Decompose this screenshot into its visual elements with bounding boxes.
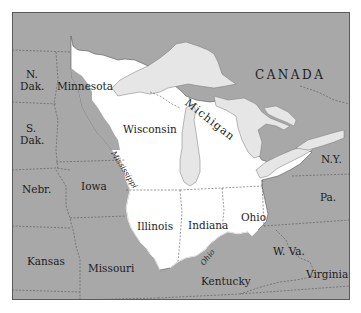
label-canada: CANADA xyxy=(255,68,325,82)
label-virginia: Virginia xyxy=(305,268,348,280)
map-frame: CANADA N. Dak. S. Dak. Minnesota Wiscons… xyxy=(12,12,350,300)
label-kansas: Kansas xyxy=(27,255,65,267)
map-svg: CANADA N. Dak. S. Dak. Minnesota Wiscons… xyxy=(12,12,350,300)
label-new-york: N.Y. xyxy=(321,153,342,165)
label-indiana: Indiana xyxy=(188,219,228,231)
label-minnesota: Minnesota xyxy=(57,80,113,92)
label-north-dakota-1: N. xyxy=(26,68,38,80)
label-illinois: Illinois xyxy=(137,220,173,232)
label-wisconsin: Wisconsin xyxy=(123,123,177,135)
label-iowa: Iowa xyxy=(81,180,107,192)
label-missouri: Missouri xyxy=(88,262,135,274)
label-north-dakota-2: Dak. xyxy=(20,80,44,92)
label-south-dakota-1: S. xyxy=(26,122,36,134)
label-south-dakota-2: Dak. xyxy=(20,134,44,146)
label-ohio: Ohio xyxy=(241,211,266,223)
label-kentucky: Kentucky xyxy=(201,275,251,287)
label-pennsylvania: Pa. xyxy=(320,191,336,203)
label-nebraska: Nebr. xyxy=(22,183,51,195)
label-west-virginia: W. Va. xyxy=(273,245,305,257)
